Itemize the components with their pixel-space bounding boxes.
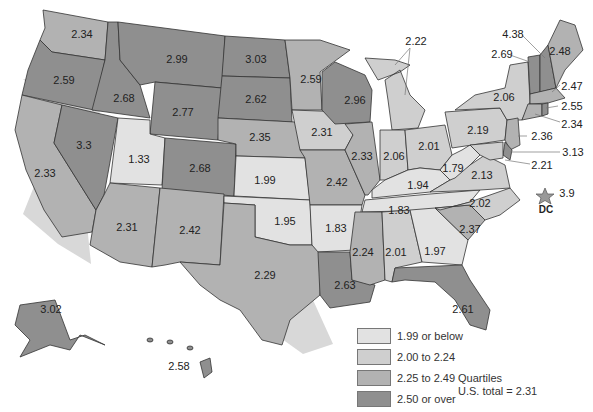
label-ne: 2.35 [249, 131, 270, 143]
label-ca: 2.33 [34, 167, 55, 179]
legend-item: 2.00 to 2.24 [357, 346, 463, 367]
label-ia: 2.31 [311, 126, 332, 138]
label-mn: 2.59 [300, 73, 321, 85]
label-nd: 3.03 [245, 53, 266, 65]
label-hi: 2.58 [168, 360, 189, 372]
label-nc: 2.02 [469, 197, 490, 209]
legend-item: 2.25 to 2.49 [357, 367, 463, 388]
label-ms: 2.24 [352, 246, 373, 258]
legend-note: Quartiles U.S. total = 2.31 [458, 372, 537, 398]
label-pa: 2.19 [467, 124, 488, 136]
label-sc: 2.37 [459, 223, 480, 235]
label-de: 3.13 [562, 146, 583, 158]
legend-label: 2.00 to 2.24 [397, 351, 455, 363]
label-vt: 2.69 [491, 48, 512, 60]
legend-label: 1.99 or below [397, 330, 463, 342]
dc-star-icon [536, 188, 554, 204]
label-id: 2.68 [113, 92, 134, 104]
label-tx: 2.29 [254, 269, 275, 281]
legend: 1.99 or below 2.00 to 2.24 2.25 to 2.49 … [357, 325, 463, 409]
legend-swatch-q3 [357, 370, 391, 386]
label-mi: 2.22 [405, 35, 426, 47]
label-nv: 3.3 [76, 139, 91, 151]
label-ky: 1.94 [407, 179, 428, 191]
label-az: 2.31 [116, 221, 137, 233]
label-dc-name: DC [539, 204, 553, 215]
label-wa: 2.34 [71, 28, 92, 40]
label-me: 2.48 [549, 45, 570, 57]
us-choropleth-map: 2.34 2.59 2.33 3.3 2.68 2.99 2.77 1.33 2… [0, 0, 593, 412]
label-la: 2.63 [334, 279, 355, 291]
label-ma: 2.47 [561, 80, 582, 92]
label-ri: 2.55 [561, 100, 582, 112]
label-mt: 2.99 [166, 53, 187, 65]
label-oh: 2.01 [418, 140, 439, 152]
state-wi [322, 62, 372, 124]
label-wv: 1.79 [442, 162, 463, 174]
state-ri [542, 103, 548, 116]
label-ut: 1.33 [128, 153, 149, 165]
label-sd: 2.62 [245, 93, 266, 105]
state-vt [528, 55, 540, 94]
label-il: 2.33 [351, 150, 372, 162]
label-va: 2.13 [471, 169, 492, 181]
label-or: 2.59 [53, 74, 74, 86]
legend-swatch-q4 [357, 391, 391, 407]
legend-item: 1.99 or below [357, 325, 463, 346]
label-ak: 3.02 [40, 303, 61, 315]
label-wy: 2.77 [172, 106, 193, 118]
label-in: 2.06 [383, 150, 404, 162]
label-ok: 1.95 [274, 215, 295, 227]
label-fl: 2.61 [452, 303, 473, 315]
legend-label: 2.50 or over [397, 393, 456, 405]
label-ny: 2.06 [493, 91, 514, 103]
label-ga: 1.97 [424, 245, 445, 257]
label-ks: 1.99 [254, 174, 275, 186]
label-mo: 2.42 [326, 176, 347, 188]
legend-swatch-q2 [357, 349, 391, 365]
label-nh: 4.38 [502, 28, 523, 40]
label-wi: 2.96 [344, 94, 365, 106]
us-total: U.S. total = 2.31 [458, 385, 537, 398]
label-ct: 2.34 [561, 118, 582, 130]
label-tn: 1.83 [388, 204, 409, 216]
label-md: 2.21 [531, 159, 552, 171]
legend-title: Quartiles [458, 372, 537, 385]
label-co: 2.68 [189, 162, 210, 174]
state-fl [392, 265, 490, 330]
legend-swatch-q1 [357, 328, 391, 344]
label-ar: 1.83 [325, 222, 346, 234]
label-al: 2.01 [385, 246, 406, 258]
legend-label: 2.25 to 2.49 [397, 372, 455, 384]
label-nj: 2.36 [531, 130, 552, 142]
label-dc: 3.9 [559, 187, 574, 199]
state-hi [147, 338, 212, 378]
label-nm: 2.42 [179, 224, 200, 236]
legend-item: 2.50 or over [357, 388, 463, 409]
state-mi [365, 58, 425, 130]
